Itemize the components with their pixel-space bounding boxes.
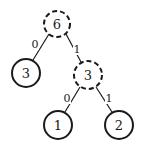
node-root: 6 bbox=[44, 11, 70, 37]
node-label-leaf-2: 2 bbox=[115, 118, 123, 133]
node-leaf-1: 1 bbox=[44, 111, 72, 139]
huffman-tree-diagram: 0 1 0 1 6 3 3 1 2 bbox=[0, 0, 142, 149]
node-label-internal: 3 bbox=[84, 68, 92, 83]
edge-label-internal-leaf2: 1 bbox=[106, 92, 113, 105]
edge-label-internal-leaf1: 0 bbox=[64, 92, 71, 105]
node-label-left-leaf: 3 bbox=[22, 66, 30, 81]
node-internal: 3 bbox=[74, 61, 102, 89]
edge-label-root-internal: 1 bbox=[74, 43, 81, 56]
edge-label-root-left: 0 bbox=[32, 38, 39, 51]
node-label-root: 6 bbox=[53, 17, 61, 32]
node-left-leaf: 3 bbox=[12, 59, 40, 87]
node-label-leaf-1: 1 bbox=[54, 118, 62, 133]
node-leaf-2: 2 bbox=[105, 111, 133, 139]
